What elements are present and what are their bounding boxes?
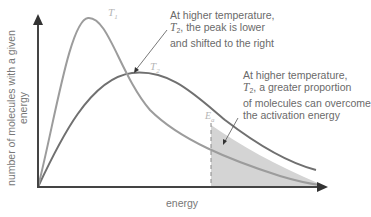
t2-label: T2 (150, 60, 160, 75)
y-axis-arrow-icon (33, 14, 43, 25)
peak-annotation: At higher temperature, T2, the peak is l… (170, 9, 274, 49)
ea-annotation: At higher temperature, T2, a greater pro… (243, 69, 371, 121)
y-axis-label: number of molecules with a given energy (5, 13, 29, 203)
x-axis-arrow-icon (317, 182, 328, 192)
x-axis-label: energy (166, 197, 198, 209)
t1-label: T1 (108, 6, 118, 21)
ea-label: Ea (205, 110, 215, 124)
